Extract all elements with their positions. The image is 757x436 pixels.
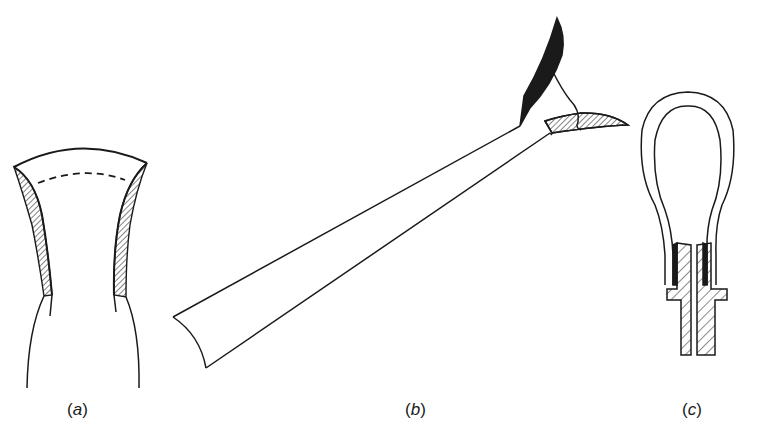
panel-c-loop-socket — [641, 92, 734, 355]
panel-a-label: (a) — [67, 400, 88, 420]
diagram-canvas — [0, 0, 757, 436]
panel-a-flared-tube — [14, 148, 147, 388]
panel-b-label: (b) — [405, 400, 426, 420]
panel-a-letter: a — [73, 400, 82, 419]
panel-c-label: (c) — [682, 400, 702, 420]
panel-c-letter: c — [688, 400, 697, 419]
panel-b-letter: b — [411, 400, 420, 419]
panel-b-split-tube — [173, 18, 628, 368]
